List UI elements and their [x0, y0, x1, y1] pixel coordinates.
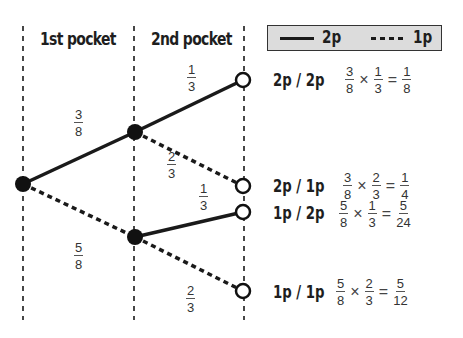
times-sign: × — [359, 71, 368, 89]
outcome-node-1p1p — [236, 284, 250, 298]
outcome-result: 14 — [400, 171, 409, 201]
outcome-node-2p2p — [236, 73, 250, 87]
branch-first-2p — [23, 132, 135, 184]
outcome-label-2p2p: 2p / 2p — [273, 70, 325, 90]
outcome-label-1p1p: 1p / 1p — [273, 282, 325, 302]
node-first-2p — [127, 124, 143, 140]
outcome-node-2p1p — [236, 179, 250, 193]
solid-line-swatch — [280, 37, 314, 40]
outcome-result: 18 — [402, 65, 411, 95]
column-label-first-pocket: 1st pocket — [40, 29, 116, 49]
dotted-line-swatch — [371, 37, 403, 40]
branch-prob-2p-then-2p: 1 3 — [187, 63, 196, 93]
equals-sign: = — [382, 205, 391, 223]
times-sign: × — [353, 205, 362, 223]
outcome-node-1p2p — [236, 205, 250, 219]
root-node — [15, 176, 31, 192]
branch-1p-then-2p — [135, 212, 243, 237]
equals-sign: = — [386, 177, 395, 195]
branch-first-1p — [23, 184, 135, 237]
branch-prob-first-1p: 5 8 — [74, 241, 83, 271]
outcome-result: 512 — [393, 277, 407, 307]
equals-sign: = — [379, 283, 388, 301]
equals-sign: = — [388, 71, 397, 89]
branch-prob-2p-then-1p: 2 3 — [167, 150, 176, 180]
outcome-label-1p2p: 1p / 2p — [273, 203, 325, 223]
times-sign: × — [357, 177, 366, 195]
probability-tree-diagram: 1st pocket 2nd pocket 2p 1p 3 8 5 8 1 3 … — [0, 0, 463, 338]
outcome-result: 524 — [396, 199, 410, 229]
branch-prob-1p-then-1p: 2 3 — [186, 284, 195, 314]
branch-prob-1p-then-2p: 1 3 — [199, 182, 208, 212]
times-sign: × — [350, 283, 359, 301]
legend-label-1p: 1p — [413, 27, 432, 47]
legend: 2p 1p — [267, 25, 442, 51]
legend-label-2p: 2p — [322, 27, 341, 47]
branch-2p-then-1p — [135, 132, 243, 186]
outcome-calc-2p2p: 38 × 13 = 18 — [345, 64, 411, 96]
outcome-calc-1p2p: 58 × 13 = 524 — [339, 198, 411, 230]
column-label-second-pocket: 2nd pocket — [151, 29, 232, 49]
node-first-1p — [127, 229, 143, 245]
outcome-label-2p1p: 2p / 1p — [273, 176, 325, 196]
outcome-calc-1p1p: 58 × 23 = 512 — [336, 276, 408, 308]
branch-prob-first-2p: 3 8 — [74, 108, 83, 138]
